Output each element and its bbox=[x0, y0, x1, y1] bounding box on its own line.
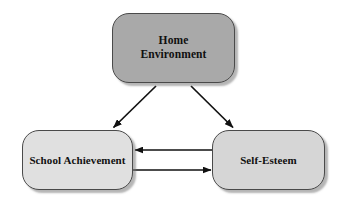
diagram-canvas: HomeEnvironment School Achievement Self-… bbox=[0, 0, 347, 211]
edge-home-to-school bbox=[114, 86, 157, 128]
node-home-environment[interactable]: HomeEnvironment bbox=[112, 13, 235, 83]
edge-home-to-self bbox=[191, 86, 233, 128]
node-home-environment-label: HomeEnvironment bbox=[140, 34, 206, 61]
node-school-achievement-label: School Achievement bbox=[29, 154, 125, 167]
node-self-esteem-label: Self-Esteem bbox=[240, 154, 297, 167]
node-home-environment-label-line2: Environment bbox=[140, 48, 206, 60]
node-home-environment-label-line1: Home bbox=[159, 34, 189, 46]
node-school-achievement[interactable]: School Achievement bbox=[22, 130, 133, 190]
node-self-esteem[interactable]: Self-Esteem bbox=[212, 130, 325, 190]
